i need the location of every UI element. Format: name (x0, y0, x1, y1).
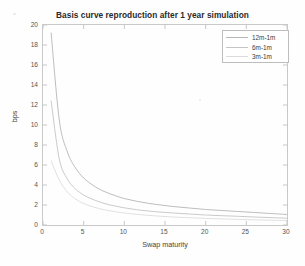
y-tick-label: 18 (20, 41, 38, 48)
y-tick-label: 6 (20, 161, 38, 168)
y-tick-label: 4 (20, 181, 38, 188)
y-tick-label: 10 (20, 121, 38, 128)
y-tick-label: 2 (20, 201, 38, 208)
figure-canvas: Basis curve reproduction after 1 year si… (0, 0, 305, 266)
legend-line-swatch (226, 37, 248, 38)
legend-line-swatch (226, 47, 248, 48)
x-tick-label: 25 (242, 228, 249, 235)
x-tick-label: 30 (282, 228, 289, 235)
legend-item-label: 3m-1m (252, 52, 272, 62)
legend-item: 6m-1m (223, 43, 288, 53)
scan-speck (13, 13, 16, 15)
x-tick-label: 0 (40, 228, 44, 235)
y-tick-label: 14 (20, 81, 38, 88)
legend-item-label: 12m-1m (252, 33, 275, 43)
legend-item: 3m-1m (223, 52, 288, 62)
y-tick-label: 12 (20, 101, 38, 108)
legend-item-label: 6m-1m (252, 43, 272, 53)
y-tick-label: 16 (20, 61, 38, 68)
y-tick-label: 20 (20, 21, 38, 28)
x-tick-label: 5 (81, 228, 85, 235)
y-tick-label: 8 (20, 141, 38, 148)
legend-item: 12m-1m (223, 33, 288, 43)
curve-6m-1m (51, 101, 287, 218)
x-axis-label: Swap maturity (42, 240, 288, 249)
x-tick-label: 10 (120, 228, 127, 235)
scan-speck (199, 99, 201, 101)
curve-3m-1m (51, 161, 287, 221)
legend-box: 12m-1m 6m-1m 3m-1m (222, 30, 289, 63)
y-tick-label: 0 (20, 221, 38, 228)
chart-title: Basis curve reproduction after 1 year si… (0, 10, 305, 20)
y-axis-label: bps (10, 97, 19, 137)
x-tick-label: 15 (160, 228, 167, 235)
legend-line-swatch (226, 56, 248, 57)
x-tick-label: 20 (201, 228, 208, 235)
